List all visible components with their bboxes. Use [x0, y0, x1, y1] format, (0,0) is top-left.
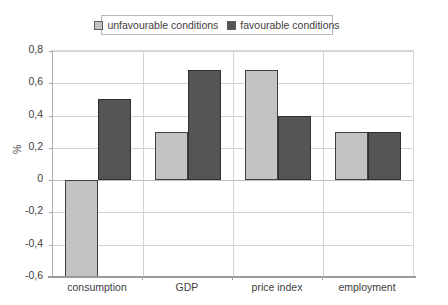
y-tick-label: 0,2: [0, 141, 43, 152]
y-tick-label: 0,8: [0, 44, 43, 55]
x-tick-label: GDP: [142, 281, 232, 293]
x-tick-label: consumption: [52, 281, 142, 293]
bar: [65, 180, 98, 277]
legend-item-unfavourable: unfavourable conditions: [94, 20, 218, 31]
bar: [188, 70, 221, 180]
bar: [368, 132, 401, 180]
chart-legend: unfavourable conditions favourable condi…: [101, 15, 333, 35]
y-tick-label: -0,6: [0, 270, 43, 281]
bar: [245, 70, 278, 180]
x-tick-mark: [232, 276, 233, 280]
gridline-vertical: [323, 51, 324, 277]
gridline-vertical: [143, 51, 144, 277]
bar: [155, 132, 188, 180]
legend-label-favourable: favourable conditions: [240, 20, 339, 31]
y-tick-label: 0,4: [0, 109, 43, 120]
plot-area: [52, 50, 414, 277]
y-tick-mark: [49, 180, 53, 181]
x-tick-label: employment: [322, 281, 412, 293]
dark-gray-square-icon: [227, 21, 236, 30]
y-tick-label: -0,4: [0, 238, 43, 249]
bar: [335, 132, 368, 180]
gridline-vertical: [233, 51, 234, 277]
y-tick-label: -0,2: [0, 205, 43, 216]
legend-item-favourable: favourable conditions: [227, 20, 339, 31]
bar-chart: unfavourable conditions favourable condi…: [0, 0, 448, 305]
y-tick-label: 0: [0, 173, 43, 184]
bar: [278, 116, 311, 181]
legend-label-unfavourable: unfavourable conditions: [107, 20, 218, 31]
y-tick-mark: [49, 245, 53, 246]
y-tick-mark: [49, 83, 53, 84]
x-tick-mark: [142, 276, 143, 280]
y-tick-mark: [49, 212, 53, 213]
bar: [98, 99, 131, 180]
x-tick-mark: [322, 276, 323, 280]
light-gray-square-icon: [94, 21, 103, 30]
y-tick-label: 0,6: [0, 76, 43, 87]
y-tick-mark: [49, 148, 53, 149]
y-tick-mark: [49, 116, 53, 117]
y-tick-mark: [49, 51, 53, 52]
x-tick-label: price index: [232, 281, 322, 293]
